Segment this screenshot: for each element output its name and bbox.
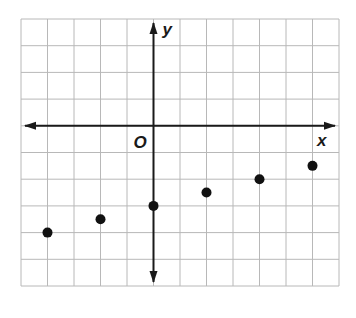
x-axis-label: x [316,131,328,150]
coordinate-plane: x y O [0,0,356,318]
x-axis-arrow-left-icon [24,122,36,130]
x-axis-arrow-right-icon [324,122,336,130]
data-point [96,214,106,224]
grid-lines [21,19,339,286]
origin-label: O [134,133,147,152]
y-axis-arrow-up-icon [150,22,158,34]
data-point [149,201,159,211]
data-point [43,228,53,238]
data-point [255,174,265,184]
data-point [308,161,318,171]
y-axis-label: y [162,20,174,39]
y-axis-arrow-down-icon [150,271,158,283]
data-point [202,188,212,198]
